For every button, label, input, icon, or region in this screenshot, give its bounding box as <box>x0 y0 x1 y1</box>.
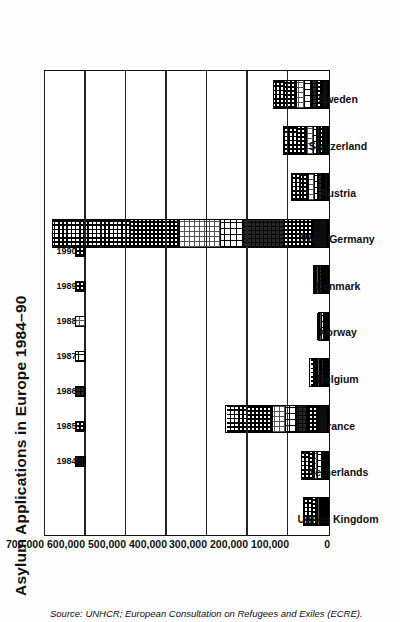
bar-segment-1990[interactable] <box>227 406 249 433</box>
bar-segment-1987[interactable] <box>305 81 312 108</box>
gridline-700000 <box>44 71 45 535</box>
chart-page: Asylum Applications in Europe 1984–90 01… <box>0 0 400 622</box>
bar-segment-1988[interactable] <box>273 406 287 433</box>
bar-segment-1989[interactable] <box>131 220 180 247</box>
legend-item-1990[interactable]: 1990 <box>52 242 86 262</box>
stacked-bar[interactable] <box>225 405 329 434</box>
category-slot: Netherlands <box>334 443 398 490</box>
gridline-100000 <box>287 71 288 535</box>
bar-segment-1990[interactable] <box>274 81 286 108</box>
legend-label: 1984 <box>56 456 76 467</box>
y-tick-label: 600,000 <box>47 538 85 550</box>
category-slot: Belgium <box>334 350 398 397</box>
y-tick-label: 300,000 <box>169 538 207 550</box>
bar-segment-1987[interactable] <box>221 220 244 247</box>
category-slot: Austria <box>334 163 398 210</box>
legend-swatch-1990 <box>75 246 86 257</box>
y-tick-label: 400,000 <box>129 538 167 550</box>
category-slot: France <box>334 396 398 443</box>
bar-segment-1989[interactable] <box>301 174 309 201</box>
category-label: Norway <box>319 326 357 338</box>
category-label: West Germany <box>301 233 374 245</box>
y-tick-label: 700,000 <box>6 538 44 550</box>
bar-segment-1988[interactable] <box>297 81 305 108</box>
category-label: France <box>321 420 355 432</box>
category-label: Switzerland <box>309 140 367 152</box>
legend-label: 1989 <box>56 281 76 292</box>
category-label: United Kingdom <box>297 513 378 525</box>
y-tick-label: 500,000 <box>88 538 126 550</box>
gridline-200000 <box>246 71 247 535</box>
bar-segment-1986[interactable] <box>297 406 307 433</box>
legend-item-1989[interactable]: 1989 <box>52 277 86 297</box>
bar-segment-1985[interactable] <box>308 406 320 433</box>
legend-label: 1985 <box>56 421 76 432</box>
bar-segment-1986[interactable] <box>244 220 284 247</box>
bar-segment-1989[interactable] <box>298 127 307 154</box>
bar-segment-1988[interactable] <box>180 220 221 247</box>
legend-swatch-1985 <box>75 421 86 432</box>
bar-segment-1990[interactable] <box>292 174 301 201</box>
legend-swatch-1987 <box>75 351 86 362</box>
source-note: Source: UNHCR; European Consultation on … <box>50 608 363 619</box>
y-tick-label: 200,000 <box>210 538 248 550</box>
category-slot: United Kingdom <box>334 489 398 536</box>
gridline-400000 <box>165 71 166 535</box>
legend-swatch-1988 <box>75 316 86 327</box>
legend-item-1988[interactable]: 1988 <box>52 312 86 332</box>
y-tick-label: 0 <box>324 538 330 550</box>
legend-swatch-1989 <box>75 281 86 292</box>
legend: 1984198519861987198819891990 <box>52 242 86 472</box>
category-slot: Denmark <box>334 256 398 303</box>
legend-swatch-1984 <box>75 456 86 467</box>
category-slot: West Germany <box>334 210 398 257</box>
category-label: Sweden <box>318 93 358 105</box>
category-slot: Norway <box>334 303 398 350</box>
category-axis: United KingdomNetherlandsFranceBelgiumNo… <box>334 70 398 536</box>
chart-figure: Asylum Applications in Europe 1984–90 01… <box>0 0 400 622</box>
legend-item-1985[interactable]: 1985 <box>52 417 86 437</box>
y-tick-label: 100,000 <box>251 538 289 550</box>
legend-item-1986[interactable]: 1986 <box>52 382 86 402</box>
legend-label: 1988 <box>56 316 76 327</box>
chart-title: Asylum Applications in Europe 1984–90 <box>12 295 30 596</box>
category-label: Belgium <box>317 373 358 385</box>
category-slot: Switzerland <box>334 117 398 164</box>
legend-label: 1990 <box>56 246 76 257</box>
gridline-500000 <box>125 71 126 535</box>
gridline-300000 <box>206 71 207 535</box>
plot-area <box>44 70 330 536</box>
category-label: Austria <box>320 187 356 199</box>
legend-label: 1986 <box>56 386 76 397</box>
legend-item-1987[interactable]: 1987 <box>52 347 86 367</box>
category-slot: Sweden <box>334 70 398 117</box>
category-label: Denmark <box>316 280 361 292</box>
legend-swatch-1986 <box>75 386 86 397</box>
bar-segment-1989[interactable] <box>248 406 272 433</box>
legend-item-1984[interactable]: 1984 <box>52 452 86 472</box>
legend-label: 1987 <box>56 351 76 362</box>
category-label: Netherlands <box>308 466 369 478</box>
